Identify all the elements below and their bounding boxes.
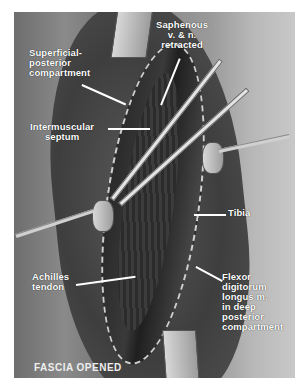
label-tibia: Tibia [228,208,251,218]
retractor-top [110,12,153,58]
label-achilles-tendon: Achilles tendon [32,272,69,292]
retractor-bottom [162,330,200,378]
label-saphenous-retracted: Saphenous v. & n. retracted [156,20,208,50]
leader-tibia [194,214,226,216]
leader-septum [108,128,150,130]
surgical-illustration: Superficial- posterior compartment Saphe… [14,12,295,378]
retractor-left [92,200,114,232]
label-intermuscular-septum: Intermuscular septum [30,122,94,142]
label-superficial-posterior-compartment: Superficial- posterior compartment [29,48,90,78]
figure-caption: FASCIA OPENED [34,362,122,373]
retractor-right [202,142,224,174]
label-flexor-digitorum-longus: Flexor digitorum longus m. in deep poste… [222,272,283,332]
